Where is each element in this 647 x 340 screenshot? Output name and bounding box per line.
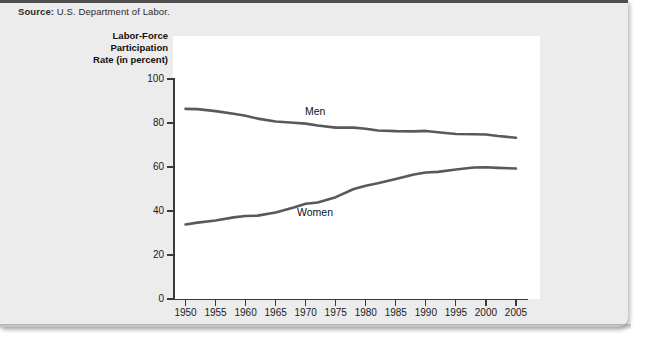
series-label-women: Women bbox=[297, 206, 333, 218]
y-axis-title: Labor-Force Participation Rate (in perce… bbox=[28, 30, 168, 67]
y-tick-80 bbox=[167, 122, 173, 123]
x-tick-1990 bbox=[425, 300, 426, 306]
y-tick-label-100: 100 bbox=[118, 73, 164, 84]
x-tick-1975 bbox=[335, 300, 336, 306]
x-tick-1960 bbox=[245, 300, 246, 306]
x-tick-1950 bbox=[185, 300, 186, 306]
y-axis-title-line3: Rate (in percent) bbox=[28, 54, 168, 66]
y-tick-label-80: 80 bbox=[118, 117, 164, 128]
y-tick-40 bbox=[167, 210, 173, 211]
y-tick-label-0: 0 bbox=[118, 293, 164, 304]
y-tick-label-40: 40 bbox=[118, 205, 164, 216]
x-tick-1965 bbox=[275, 300, 276, 306]
y-tick-label-60: 60 bbox=[118, 161, 164, 172]
plot-area bbox=[173, 36, 540, 299]
y-tick-60 bbox=[167, 166, 173, 167]
x-tick-label-2005: 2005 bbox=[496, 307, 536, 318]
source-text: U.S. Department of Labor. bbox=[54, 6, 170, 17]
y-tick-100 bbox=[167, 78, 173, 79]
x-tick-1985 bbox=[395, 300, 396, 306]
y-axis-line bbox=[173, 78, 175, 300]
y-axis-title-line1: Labor-Force bbox=[28, 30, 168, 42]
x-tick-2000 bbox=[485, 300, 486, 306]
x-tick-1995 bbox=[455, 300, 456, 306]
y-tick-label-20: 20 bbox=[118, 249, 164, 260]
x-tick-1980 bbox=[365, 300, 366, 306]
source-label: Source: bbox=[18, 6, 54, 17]
y-axis-title-line2: Participation bbox=[28, 42, 168, 54]
x-tick-1955 bbox=[215, 300, 216, 306]
source-note: Source: U.S. Department of Labor. bbox=[18, 6, 170, 17]
y-tick-20 bbox=[167, 254, 173, 255]
x-axis-line bbox=[173, 299, 528, 301]
y-tick-0 bbox=[167, 298, 173, 299]
x-tick-1970 bbox=[305, 300, 306, 306]
series-label-men: Men bbox=[305, 105, 325, 117]
x-tick-2005 bbox=[515, 300, 516, 306]
